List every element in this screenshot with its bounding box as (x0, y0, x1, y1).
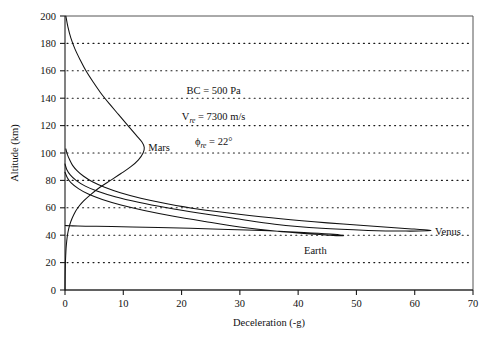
annotation-bc: BC = 500 Pa (187, 85, 241, 96)
x-tick-label: 10 (118, 298, 129, 309)
y-tick-label: 200 (40, 11, 56, 22)
y-tick-label: 80 (46, 175, 57, 186)
series-label-earth: Earth (304, 245, 327, 256)
y-tick-label: 120 (40, 120, 56, 131)
x-tick-label: 70 (468, 298, 479, 309)
x-axis-title: Deceleration (-g) (233, 317, 306, 329)
x-tick-label: 30 (235, 298, 246, 309)
y-tick-label: 160 (40, 65, 56, 76)
x-tick-label: 0 (62, 298, 67, 309)
x-tick-label: 20 (176, 298, 187, 309)
annotation-vre: Vre = 7300 m/s (182, 111, 246, 125)
y-tick-label: 0 (51, 285, 56, 296)
x-tick-label: 40 (293, 298, 304, 309)
gridlines (67, 43, 471, 262)
deceleration-vs-altitude-chart: 0204060801001201401601802000102030405060… (0, 0, 495, 339)
y-tick-label: 60 (46, 202, 57, 213)
curve-earth (65, 172, 343, 236)
y-tick-label: 140 (40, 93, 56, 104)
series-label-venus: Venus (435, 226, 461, 237)
plot-frame (65, 16, 473, 290)
series-labels: MarsVenusEarth (148, 142, 460, 256)
parameter-annotations: BC = 500 PaVre = 7300 m/sϕre = 22° (182, 85, 246, 150)
y-tick-label: 180 (40, 38, 56, 49)
y-axis-title: Altitude (km) (9, 124, 21, 182)
annotation-phire: ϕre = 22° (195, 136, 232, 150)
y-tick-label: 20 (46, 257, 57, 268)
axis-ticks (60, 16, 473, 295)
y-tick-label: 100 (40, 148, 56, 159)
frame-border (65, 16, 473, 290)
y-tick-label: 40 (46, 230, 57, 241)
series-label-mars: Mars (148, 142, 170, 153)
curve-venus (65, 149, 431, 231)
x-tick-label: 60 (409, 298, 420, 309)
chart-figure: 0204060801001201401601802000102030405060… (0, 0, 495, 339)
axis-tick-labels: 0204060801001201401601802000102030405060… (40, 11, 478, 309)
x-tick-label: 50 (351, 298, 362, 309)
